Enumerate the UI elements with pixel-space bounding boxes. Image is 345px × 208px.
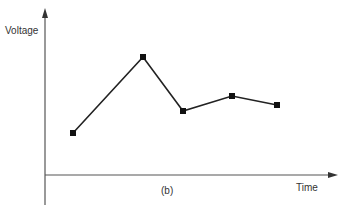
- chart-canvas: [0, 0, 345, 208]
- data-point-marker: [70, 130, 76, 136]
- y-axis-label: Voltage: [5, 25, 38, 36]
- x-axis-arrow-icon: [328, 172, 338, 178]
- figure-caption: (b): [161, 185, 173, 196]
- data-point-marker: [229, 93, 235, 99]
- data-point-marker: [140, 54, 146, 60]
- x-axis-label: Time: [296, 182, 318, 193]
- y-axis-arrow-icon: [42, 8, 48, 18]
- data-point-marker: [180, 108, 186, 114]
- voltage-line: [73, 57, 277, 133]
- series-voltage: [70, 54, 280, 136]
- data-point-marker: [274, 102, 280, 108]
